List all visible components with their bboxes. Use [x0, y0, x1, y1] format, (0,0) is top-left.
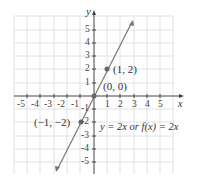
x-tick: -5 — [17, 100, 25, 110]
axes — [14, 12, 182, 174]
x-tick: -1 — [71, 100, 79, 110]
y-tick: 2 — [85, 64, 90, 74]
y-tick: -2 — [81, 117, 89, 127]
point-0-0 — [92, 94, 97, 99]
coordinate-plane — [0, 0, 202, 179]
line-arrow-bottom-icon — [55, 166, 60, 172]
y-tick: -3 — [81, 131, 89, 141]
x-tick: 3 — [132, 100, 137, 110]
x-tick: -3 — [44, 100, 52, 110]
point-1-2 — [105, 67, 110, 72]
y-tick: 4 — [85, 38, 90, 48]
x-tick: 5 — [158, 100, 163, 110]
equation-label: y = 2x or f(x) = 2x — [100, 122, 178, 133]
y-tick: 1 — [85, 78, 90, 88]
y-axis-label: y — [86, 6, 91, 17]
x-tick: 4 — [145, 100, 150, 110]
y-tick: 5 — [85, 25, 90, 35]
y-tick: -1 — [81, 104, 89, 114]
x-tick: -4 — [31, 100, 39, 110]
point-label-1-2: (1, 2) — [113, 64, 137, 75]
x-axis-label: x — [178, 99, 182, 109]
x-tick: -2 — [57, 100, 65, 110]
x-tick: 2 — [118, 100, 123, 110]
y-tick: -5 — [81, 157, 89, 167]
y-axis-arrow-icon — [92, 10, 96, 15]
point-label-neg1-neg2: (−1, −2) — [34, 117, 70, 128]
y-tick: 3 — [85, 51, 90, 61]
line-arrow-top-icon — [129, 20, 134, 26]
point-label-0-0: (0, 0) — [103, 81, 127, 92]
x-tick: 1 — [105, 100, 110, 110]
y-tick: -4 — [81, 144, 89, 154]
